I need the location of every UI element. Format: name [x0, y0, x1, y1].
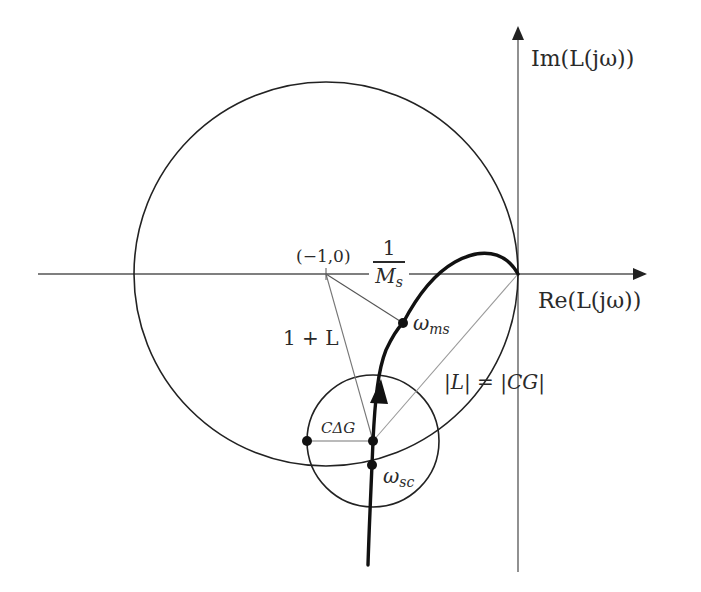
inverse-ms-fraction: 1 Ms [369, 237, 409, 293]
omega-sc-point [367, 460, 377, 470]
ms-main: M [375, 264, 395, 288]
uncertainty-label: CΔG [321, 421, 355, 436]
nyquist-diagram: Im(L(jω)) Re(L(jω)) (−1,0) 1 Ms 1 + L ωm… [0, 0, 701, 592]
real-axis-label-text: Re(L(jω)) [538, 288, 641, 313]
imag-axis-label: Im(L(jω)) [531, 48, 634, 70]
fraction-numerator: 1 [369, 237, 409, 259]
uncertainty-center-point [368, 436, 378, 446]
ms-sub: s [396, 274, 403, 290]
magnitude-label: |L| = |CG| [444, 372, 545, 392]
omega-sc-label: ωsc [383, 466, 414, 489]
return-difference-text: 1 + L [283, 326, 338, 350]
omega-sc-sub: sc [399, 474, 414, 490]
uncertainty-text: CΔG [321, 419, 355, 437]
imag-axis-label-text: Im(L(jω)) [531, 46, 634, 71]
fraction-denominator: Ms [369, 265, 409, 293]
critical-point-label: (−1,0) [296, 248, 351, 265]
omega-ms-main: ω [413, 311, 429, 335]
omega-ms-label: ωms [413, 313, 450, 336]
omega-ms-sub: ms [429, 321, 449, 337]
magnitude-l-line [373, 274, 518, 441]
return-difference-label: 1 + L [283, 328, 338, 348]
fraction-bar [373, 261, 405, 263]
real-axis-label: Re(L(jω)) [538, 290, 641, 312]
omega-sc-main: ω [383, 464, 399, 488]
uncertainty-edge-point [302, 436, 312, 446]
magnitude-text: |L| = |CG| [444, 370, 545, 394]
omega-ms-point [398, 318, 408, 328]
critical-point-text: (−1,0) [296, 246, 351, 266]
